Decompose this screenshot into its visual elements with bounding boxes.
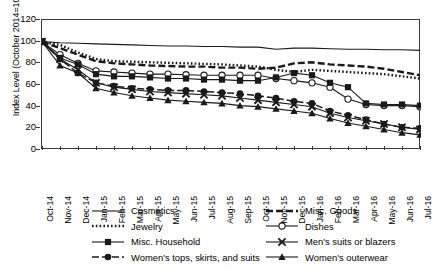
x-tick-mark (312, 146, 313, 150)
legend-label: Women's tops, skirts, and suits (131, 252, 260, 263)
x-axis-ticks: Oct-14Nov-14Dec-14Jan-15Feb-15Mar-15Apr-… (41, 150, 421, 198)
legend-symbol-cross-x (262, 235, 302, 249)
x-tick-mark (348, 146, 349, 150)
legend-symbol-filled-square (88, 235, 128, 249)
x-tick-mark (402, 146, 403, 150)
legend-item[interactable]: Jewelry (88, 219, 260, 235)
legend-symbol-filled-circle (88, 250, 128, 264)
legend-item[interactable]: Cosmetics (88, 203, 260, 219)
x-tick-mark (222, 146, 223, 150)
x-tick-mark (78, 146, 79, 150)
x-tick-mark (60, 146, 61, 150)
y-tick-mark (36, 106, 40, 107)
y-tick-mark (36, 149, 40, 150)
y-tick-mark (36, 84, 40, 85)
legend-label: Misc. Household (131, 236, 200, 247)
x-tick-mark (42, 146, 43, 150)
y-tick-label: 60 (10, 79, 36, 89)
x-tick-label: Jul-16 (424, 196, 433, 219)
y-tick-label: 0 (10, 144, 36, 154)
y-tick-label: 80 (10, 57, 36, 67)
legend-column-right: Misc. GoodsDishesMen's suits or blazersW… (262, 203, 395, 265)
x-tick-mark (384, 146, 385, 150)
x-tick-mark (96, 146, 97, 150)
legend-symbol-filled-triangle (262, 250, 302, 264)
series-canvas (42, 20, 421, 150)
x-tick-mark (114, 146, 115, 150)
legend-column-left: CosmeticsJewelryMisc. HouseholdWomen's t… (88, 203, 260, 265)
x-tick-mark (330, 146, 331, 150)
y-tick-mark (36, 62, 40, 63)
y-tick-label: 40 (10, 101, 36, 111)
y-tick-label: 120 (10, 14, 36, 24)
y-tick-label: 20 (10, 122, 36, 132)
y-axis-ticks: 020406080100120 (6, 0, 36, 160)
x-tick-mark (240, 146, 241, 150)
chart-legend: CosmeticsJewelryMisc. HouseholdWomen's t… (0, 203, 425, 265)
legend-item[interactable]: Dishes (262, 219, 395, 235)
legend-item[interactable]: Men's suits or blazers (262, 234, 395, 250)
x-tick-mark (294, 146, 295, 150)
y-tick-mark (36, 127, 40, 128)
x-tick-mark (420, 146, 421, 150)
y-tick-mark (36, 41, 40, 42)
legend-symbol-none (88, 219, 128, 233)
x-tick-mark (366, 146, 367, 150)
legend-label: Women's outerwear (305, 252, 388, 263)
x-tick-mark (168, 146, 169, 150)
x-tick-mark (150, 146, 151, 150)
y-tick-label: 100 (10, 36, 36, 46)
x-tick-mark (276, 146, 277, 150)
series-0 (42, 42, 420, 51)
x-tick-mark (204, 146, 205, 150)
plot-area (41, 19, 420, 149)
y-tick-mark (36, 19, 40, 20)
legend-symbol-none (88, 204, 128, 218)
legend-symbol-none (262, 204, 302, 218)
legend-item[interactable]: Women's outerwear (262, 250, 395, 266)
legend-item[interactable]: Women's tops, skirts, and suits (88, 250, 260, 266)
x-tick-mark (186, 146, 187, 150)
legend-label: Dishes (305, 221, 334, 232)
legend-label: Men's suits or blazers (305, 236, 395, 247)
x-tick-mark (258, 146, 259, 150)
x-tick-mark (132, 146, 133, 150)
legend-label: Misc. Goods (305, 205, 357, 216)
legend-label: Jewelry (131, 221, 163, 232)
legend-item[interactable]: Misc. Household (88, 234, 260, 250)
legend-item[interactable]: Misc. Goods (262, 203, 395, 219)
legend-label: Cosmetics (131, 205, 175, 216)
legend-symbol-open-circle (262, 219, 302, 233)
